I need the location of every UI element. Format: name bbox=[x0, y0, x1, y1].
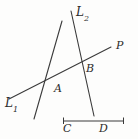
label-point-D: D bbox=[99, 123, 108, 134]
geometry-figure: L2 P B A L1 C D bbox=[0, 0, 138, 139]
label-point-C: C bbox=[63, 123, 71, 134]
label-point-P: P bbox=[116, 40, 123, 51]
label-L1-base: L bbox=[5, 96, 13, 110]
label-L1-subscript: 1 bbox=[13, 105, 18, 114]
label-line-L1: L1 bbox=[5, 97, 18, 112]
label-line-L2: L2 bbox=[76, 6, 89, 21]
label-L2-base: L bbox=[76, 5, 84, 19]
label-L2-subscript: 2 bbox=[84, 14, 89, 23]
line-left-slanted bbox=[34, 21, 62, 119]
label-point-A: A bbox=[54, 83, 62, 94]
label-point-B: B bbox=[86, 63, 94, 74]
geometry-canvas bbox=[0, 0, 138, 139]
